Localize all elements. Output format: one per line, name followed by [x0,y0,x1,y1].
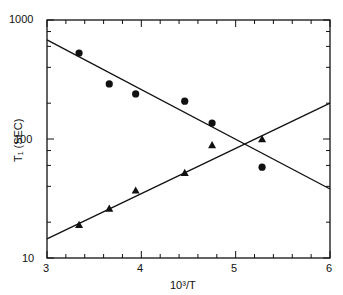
data-points [75,49,266,228]
circle-marker [258,164,265,171]
circle-marker [106,80,113,87]
ticks [47,20,330,258]
x-tick-4: 4 [137,262,143,274]
triangle-marker [208,141,216,148]
circles-fit-line [47,40,330,189]
triangle-marker [258,135,266,142]
y-tick-10: 10 [22,252,34,264]
plot-border [47,20,330,258]
triangle-marker [132,186,140,193]
x-tick-6: 6 [326,262,332,274]
y-tick-1000: 1000 [9,13,33,25]
y-axis-label: T₁ (SEC) [12,119,24,162]
x-tick-3: 3 [43,262,49,274]
fit-lines [47,40,330,239]
x-axis-label: 10³/T [170,279,196,291]
circle-marker [208,120,215,127]
circle-marker [75,49,82,56]
circle-marker [181,98,188,105]
triangle-marker [181,169,189,176]
circle-marker [132,90,139,97]
plot-frame [47,20,330,258]
triangles-fit-line [47,103,330,239]
x-tick-5: 5 [231,262,237,274]
chart: 1000 100 10 3 4 5 6 10³/T T₁ (SEC) [0,0,343,295]
